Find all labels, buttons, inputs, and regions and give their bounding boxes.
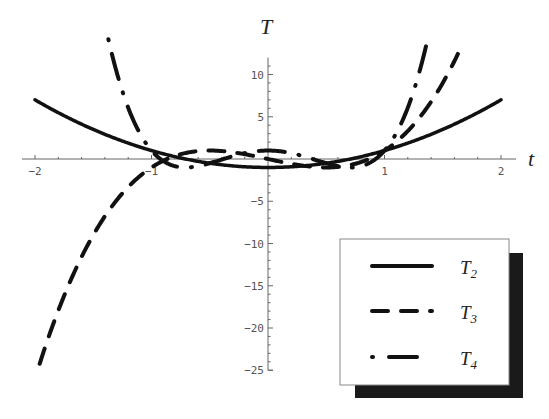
- x-tick-label: 2: [498, 165, 505, 178]
- x-axis-title: t: [528, 146, 535, 171]
- y-axis-title: T: [260, 14, 274, 39]
- y-tick-label: 10: [251, 69, 264, 82]
- legend-box: [340, 239, 509, 385]
- y-tick-label: −25: [244, 364, 264, 377]
- y-tick-label: −15: [244, 280, 264, 293]
- x-tick-label: 1: [381, 165, 388, 178]
- x-tick-label: −2: [28, 165, 41, 178]
- y-tick-label: −20: [244, 322, 264, 335]
- x-tick-label: −1: [145, 165, 158, 178]
- legend: T2 T3 T4: [340, 239, 523, 398]
- chart: −2−112105−5−10−15−20−25 T t T2 T3 T4: [0, 0, 549, 419]
- y-tick-label: −5: [251, 195, 264, 208]
- y-tick-label: −10: [244, 238, 264, 251]
- y-tick-label: 5: [257, 111, 264, 124]
